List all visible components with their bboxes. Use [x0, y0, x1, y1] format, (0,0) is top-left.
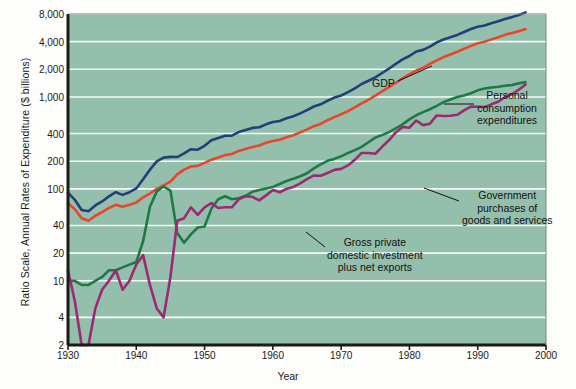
annotation-gross-private-domestic-investment: Gross private domestic investment plus n… [327, 236, 423, 274]
x-axis-tick-label: 1970 [330, 350, 352, 361]
chart-figure: Ratio Scale, Annual Rates of Expenditure… [0, 0, 576, 389]
x-axis-tick-label: 1930 [57, 350, 79, 361]
x-axis-tick-label: 1990 [467, 350, 489, 361]
x-axis-tick-label: 1950 [193, 350, 215, 361]
x-axis-title: Year [0, 370, 576, 382]
x-axis-tick-label: 2000 [535, 350, 557, 361]
annotation-gdp: GDP [372, 77, 395, 90]
annotation-personal-consumption-expenditures: Personal consumption expenditures [477, 89, 537, 127]
x-axis-tick-label: 1980 [398, 350, 420, 361]
x-axis-tick-label: 1960 [262, 350, 284, 361]
x-axis-tick-label: 1940 [125, 350, 147, 361]
annotation-government-purchases: Government purchases of goods and servic… [462, 189, 552, 227]
